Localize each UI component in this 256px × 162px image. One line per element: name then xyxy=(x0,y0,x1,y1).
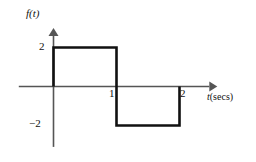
y-axis-arrowhead-icon xyxy=(49,28,59,36)
y-axis-group xyxy=(49,28,59,147)
x-axis-label: t(secs) xyxy=(207,92,233,102)
x-tick-label-2: 2 xyxy=(180,88,186,99)
x-axis-group xyxy=(19,82,218,92)
x-tick-label-1: 1 xyxy=(109,88,115,99)
y-tick-label-2: 2 xyxy=(39,41,45,52)
x-axis-arrowhead-icon xyxy=(209,82,217,92)
y-axis-label: f(t) xyxy=(26,8,39,19)
square-wave-figure: f(t) t(secs) 2 −2 1 2 xyxy=(0,0,256,162)
x-axis-label-unit: (secs) xyxy=(210,91,233,102)
plot-canvas xyxy=(0,0,256,162)
y-tick-label-minus-2: −2 xyxy=(29,118,41,129)
